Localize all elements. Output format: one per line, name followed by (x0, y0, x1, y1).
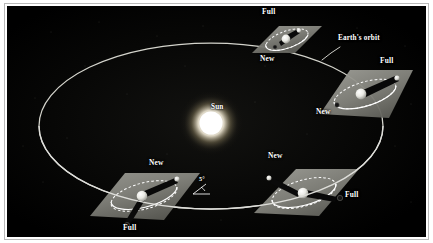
earth-body-right (356, 89, 367, 100)
inclination-angle-label: 5° (199, 176, 205, 182)
moon-full-bottom-right (337, 195, 342, 200)
sun-group (177, 89, 245, 157)
moon-new-bottom-left (174, 176, 179, 181)
moon-full-top (297, 28, 301, 32)
earth-body-bottom-left (137, 191, 148, 202)
new-moon-label-bottom-right: New (268, 152, 282, 159)
full-moon-label-right: Full (380, 57, 393, 64)
new-moon-label-right: New (316, 108, 330, 115)
new-moon-label-bottom-left: New (149, 159, 163, 166)
full-moon-label-top: Full (262, 8, 275, 15)
moon-new-bottom-right (267, 176, 272, 181)
sun-core (200, 112, 223, 135)
astronomy-diagram-figure: Sun Earth's orbit Full New Full New New … (0, 0, 433, 243)
moon-full-right (394, 75, 399, 80)
moon-new-right (335, 103, 340, 108)
earth-body-top (282, 35, 291, 44)
new-moon-label-top: New (260, 55, 274, 62)
sun-label: Sun (211, 104, 223, 111)
full-moon-label-bottom-left: Full (123, 224, 136, 231)
full-moon-label-bottom-right: Full (345, 191, 358, 198)
earth-orbit-label: Earth's orbit (338, 35, 380, 42)
moon-new-top (273, 45, 277, 49)
